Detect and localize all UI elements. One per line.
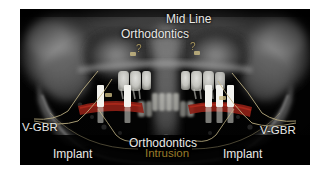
label-question-mark-left: ? <box>136 44 142 54</box>
label-implant-right: Implant <box>223 148 262 160</box>
label-implant-left: Implant <box>53 148 92 160</box>
label-orthodontics-top: Orthodontics <box>121 28 189 40</box>
label-intrusion: Intrusion <box>145 148 189 160</box>
figure-root: Mid Line Orthodontics ? ? V-GBR V-GBR Or… <box>0 0 328 176</box>
label-vgbr-right: V-GBR <box>260 125 296 137</box>
label-vgbr-left: V-GBR <box>22 122 58 134</box>
label-mid-line: Mid Line <box>166 13 211 25</box>
label-question-mark-right: ? <box>190 42 196 52</box>
radiograph-plate: Mid Line Orthodontics ? ? V-GBR V-GBR Or… <box>20 9 310 165</box>
